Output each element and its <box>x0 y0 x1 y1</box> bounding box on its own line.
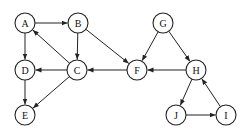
edge-b-to-f <box>86 29 129 63</box>
node-i: I <box>216 105 236 125</box>
node-a: A <box>15 13 35 33</box>
node-label: J <box>174 110 178 121</box>
graph-canvas: ABCDEFGHIJ <box>0 0 245 133</box>
node-h: H <box>186 60 206 80</box>
edge-i-to-h <box>202 79 221 107</box>
edge-c-to-e <box>33 77 69 109</box>
node-label: H <box>192 65 199 76</box>
edge-g-to-h <box>169 31 190 61</box>
nodes-layer: ABCDEFGHIJ <box>15 13 236 125</box>
edge-h-to-j <box>180 79 192 105</box>
node-label: B <box>75 18 82 29</box>
node-e: E <box>15 105 35 125</box>
node-label: G <box>159 18 166 29</box>
node-b: B <box>68 13 88 33</box>
edge-b-to-c <box>77 33 78 60</box>
edge-g-to-f <box>142 32 158 61</box>
node-f: F <box>127 60 147 80</box>
node-label: A <box>21 18 29 29</box>
node-g: G <box>153 13 173 33</box>
node-c: C <box>67 60 87 80</box>
edge-c-to-a <box>33 30 70 63</box>
node-label: F <box>134 65 140 76</box>
node-label: C <box>74 65 81 76</box>
node-d: D <box>15 60 35 80</box>
node-label: D <box>21 65 28 76</box>
node-label: E <box>22 110 28 121</box>
node-label: I <box>224 110 227 121</box>
graph-diagram: ABCDEFGHIJ <box>0 0 245 133</box>
node-j: J <box>166 105 186 125</box>
